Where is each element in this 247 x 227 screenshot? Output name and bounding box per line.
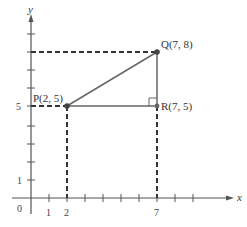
point-q-label: Q(7, 8)	[161, 38, 193, 51]
y-axis-arrow-icon	[29, 14, 34, 22]
y-tick-label-1: 1	[17, 175, 22, 186]
point-r	[155, 104, 160, 109]
x-tick-label-2: 2	[64, 207, 69, 218]
point-q	[154, 49, 160, 55]
coordinate-diagram: y x 0 1 2 7 1 5 P(2, 5) Q(7, 8) R(7, 5)	[0, 0, 247, 227]
axes: y x 0 1 2 7 1 5	[12, 3, 242, 218]
segment-pq	[67, 52, 157, 106]
y-axis-label: y	[27, 3, 33, 15]
point-p-label: P(2, 5)	[33, 92, 63, 105]
x-axis-arrow-icon	[226, 196, 234, 201]
x-tick-label-7: 7	[154, 207, 159, 218]
x-axis-label: x	[236, 191, 242, 203]
dashed-guides	[31, 52, 157, 198]
point-r-label: R(7, 5)	[161, 100, 193, 113]
triangle-pqr	[67, 52, 157, 106]
origin-label: 0	[17, 203, 22, 214]
y-tick-label-5: 5	[16, 101, 21, 112]
x-tick-label-1: 1	[46, 207, 51, 218]
point-p	[64, 103, 70, 109]
